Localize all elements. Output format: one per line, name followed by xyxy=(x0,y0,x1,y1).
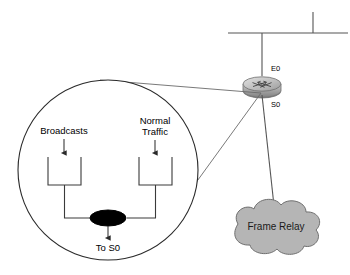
serial-port-label: S0 xyxy=(271,100,280,109)
diagram-canvas: E0 S0 Frame Relay Broadcasts Normal Traf… xyxy=(0,0,350,275)
normal-traffic-label-line2: Traffic xyxy=(142,126,168,137)
serial-link-to-cloud xyxy=(262,95,275,215)
cloud-label: Frame Relay xyxy=(247,221,304,232)
broadcasts-label: Broadcasts xyxy=(40,125,88,136)
router[interactable] xyxy=(243,77,281,98)
network-diagram: E0 S0 Frame Relay Broadcasts Normal Traf… xyxy=(0,0,350,275)
ethernet-port-label: E0 xyxy=(271,64,280,73)
frame-relay-cloud[interactable]: Frame Relay xyxy=(235,199,320,254)
ethernet-bus xyxy=(228,12,348,76)
queue-output-label: To S0 xyxy=(96,242,120,253)
normal-traffic-label-line1: Normal xyxy=(140,115,171,126)
queue-merge-node xyxy=(90,210,126,226)
